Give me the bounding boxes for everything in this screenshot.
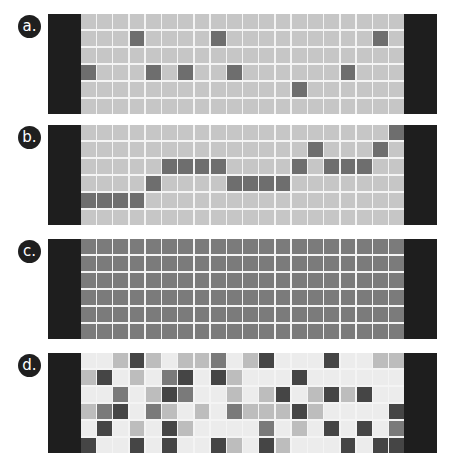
grid-cell bbox=[373, 290, 388, 305]
grid-cell bbox=[341, 48, 356, 63]
grid-cell bbox=[341, 307, 356, 322]
grid-cell bbox=[308, 210, 323, 225]
grid-cell bbox=[146, 438, 161, 453]
grid-cell bbox=[81, 82, 96, 97]
grid-cell bbox=[341, 438, 356, 453]
grid-cell bbox=[195, 159, 210, 174]
grid-cell bbox=[97, 438, 112, 453]
grid-cell bbox=[211, 307, 226, 322]
grid-cell bbox=[97, 387, 112, 402]
grid-cell bbox=[162, 159, 177, 174]
grid-cell bbox=[211, 239, 226, 254]
grid-cell bbox=[81, 404, 96, 419]
grid-cell bbox=[227, 353, 242, 368]
grid-cell bbox=[81, 438, 96, 453]
grid-cell bbox=[389, 387, 404, 402]
grid-cell bbox=[276, 48, 291, 63]
grid-cell bbox=[259, 370, 274, 385]
grid-cell bbox=[276, 142, 291, 157]
grid-cell bbox=[146, 14, 161, 29]
grid-cell bbox=[259, 438, 274, 453]
grid-cell bbox=[130, 48, 145, 63]
grid-cell bbox=[324, 125, 339, 140]
grid-cell bbox=[195, 307, 210, 322]
grid-cell bbox=[243, 193, 258, 208]
grid-cell bbox=[162, 273, 177, 288]
grid-cell bbox=[276, 31, 291, 46]
grid-cell bbox=[259, 273, 274, 288]
grid-cell bbox=[341, 159, 356, 174]
grid-cell bbox=[243, 256, 258, 271]
grid-cell bbox=[195, 65, 210, 80]
grid-cell bbox=[308, 31, 323, 46]
grid-cell bbox=[97, 370, 112, 385]
grid-cell bbox=[130, 125, 145, 140]
grid-cell bbox=[341, 142, 356, 157]
grid-cell bbox=[81, 290, 96, 305]
grid-cell bbox=[195, 290, 210, 305]
grid-cell bbox=[389, 193, 404, 208]
grid-cell bbox=[195, 210, 210, 225]
grid-cell bbox=[130, 370, 145, 385]
grid-cell bbox=[341, 31, 356, 46]
grid-cell bbox=[97, 353, 112, 368]
grid-cell bbox=[373, 404, 388, 419]
grid-cell bbox=[324, 387, 339, 402]
grid-cell bbox=[211, 256, 226, 271]
grid-cell bbox=[113, 370, 128, 385]
grid-cell bbox=[292, 14, 307, 29]
grid-cell bbox=[146, 307, 161, 322]
grid-cell bbox=[211, 387, 226, 402]
grid-cell bbox=[178, 193, 193, 208]
grid-cell bbox=[308, 256, 323, 271]
grid-cell bbox=[227, 14, 242, 29]
grid-cell bbox=[292, 210, 307, 225]
grid-cell bbox=[195, 125, 210, 140]
grid-cell bbox=[259, 142, 274, 157]
grid-cell bbox=[195, 31, 210, 46]
grid-cell bbox=[276, 307, 291, 322]
grid-cell bbox=[97, 31, 112, 46]
grid-cell bbox=[130, 193, 145, 208]
grid-cell bbox=[373, 239, 388, 254]
grid-cell bbox=[259, 404, 274, 419]
grid-cell bbox=[81, 48, 96, 63]
grid-cell bbox=[308, 404, 323, 419]
grid-cell bbox=[276, 210, 291, 225]
grid-cell bbox=[308, 99, 323, 114]
grid-cell bbox=[357, 438, 372, 453]
grid-cell bbox=[146, 421, 161, 436]
grid-cell bbox=[276, 82, 291, 97]
grid-cell bbox=[113, 273, 128, 288]
grid-cell bbox=[308, 438, 323, 453]
grid-cell bbox=[97, 159, 112, 174]
grid-cell bbox=[276, 176, 291, 191]
grid-cell bbox=[357, 404, 372, 419]
left-bar bbox=[48, 125, 81, 225]
grid-cell bbox=[81, 14, 96, 29]
grid-cell bbox=[130, 142, 145, 157]
grid-cell bbox=[195, 273, 210, 288]
grid-cell bbox=[130, 99, 145, 114]
grid-cell bbox=[389, 421, 404, 436]
left-bar bbox=[48, 353, 81, 453]
grid-cell bbox=[211, 99, 226, 114]
grid-cell bbox=[227, 48, 242, 63]
grid-cell bbox=[292, 125, 307, 140]
grid-cell bbox=[227, 193, 242, 208]
grid-cell bbox=[81, 142, 96, 157]
grid-cell bbox=[324, 324, 339, 339]
grid-cell bbox=[308, 14, 323, 29]
grid-cell bbox=[146, 82, 161, 97]
grid-cell bbox=[373, 82, 388, 97]
grid-cell bbox=[243, 142, 258, 157]
grid-cell bbox=[243, 239, 258, 254]
grid-cell bbox=[373, 438, 388, 453]
grid-cell bbox=[162, 48, 177, 63]
grid-cell bbox=[146, 353, 161, 368]
grid-cell bbox=[178, 142, 193, 157]
grid-cell bbox=[259, 176, 274, 191]
grid-cell bbox=[341, 99, 356, 114]
grid-cell bbox=[324, 99, 339, 114]
grid-cell bbox=[146, 370, 161, 385]
